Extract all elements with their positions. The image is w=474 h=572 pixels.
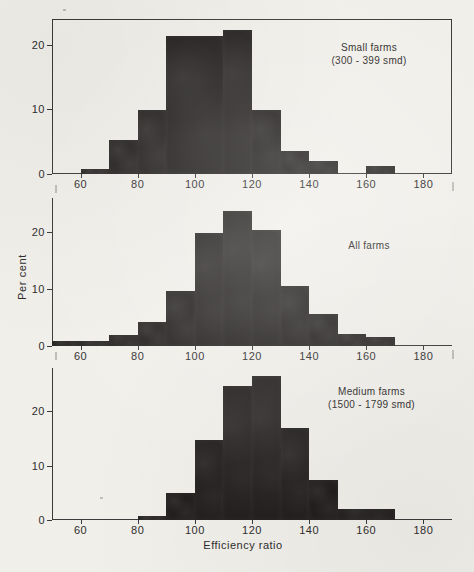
x-axis-tick-label: 180 (413, 525, 433, 536)
histogram-bar (252, 230, 281, 346)
y-axis-tick (47, 466, 52, 467)
x-axis-tick-label: 120 (242, 179, 262, 190)
histogram-bar (195, 440, 224, 520)
histogram-bar (223, 211, 252, 346)
y-axis-tick (47, 411, 52, 412)
bars-all-farms (52, 198, 452, 346)
plot-area-small-farms: Small farms (300 - 399 smd) 010206080100… (52, 19, 452, 174)
panel-note-all-farms: All farms (304, 239, 434, 253)
histogram-bar (52, 341, 81, 346)
histogram-bar (166, 493, 195, 520)
y-axis-tick (47, 174, 52, 175)
x-axis-tick-label: 140 (299, 525, 319, 536)
scan-speck (55, 352, 57, 360)
histogram-bar (166, 291, 195, 346)
y-axis-tick-label: 0 (38, 169, 45, 180)
histogram-bar (166, 36, 223, 174)
y-axis-tick-label: 20 (32, 227, 45, 238)
scan-speck (100, 497, 103, 499)
histogram-bar (309, 480, 338, 520)
panel-note-small-farms: Small farms (300 - 399 smd) (304, 41, 434, 68)
y-axis-tick (47, 289, 52, 290)
figure-histograms-efficiency-ratio: Per cent Small farms (300 - 399 smd) 010… (0, 0, 474, 572)
y-axis-tick (47, 520, 52, 521)
histogram-bar (109, 335, 138, 346)
histogram-bar (109, 140, 138, 174)
plot-area-all-farms: All farms 010206080100120140160180 (52, 198, 452, 346)
y-axis-tick-label: 10 (32, 104, 45, 115)
histogram-bar (138, 110, 167, 174)
scan-speck (452, 182, 454, 191)
histogram-bar (81, 169, 110, 174)
x-axis-tick-label: 80 (131, 179, 144, 190)
histogram-bar (309, 161, 338, 174)
y-axis-tick-label: 0 (38, 341, 45, 352)
y-axis-tick-label: 10 (32, 284, 45, 295)
x-axis-tick-label: 140 (299, 179, 319, 190)
histogram-bar (309, 314, 338, 346)
panel-small-farms: Small farms (300 - 399 smd) 010206080100… (0, 0, 474, 190)
histogram-bar (252, 110, 281, 174)
x-axis-label: Efficiency ratio (6, 539, 474, 551)
x-axis-tick-label: 160 (356, 525, 376, 536)
histogram-bar (366, 337, 395, 346)
scan-speck (55, 185, 57, 193)
x-axis-tick-label: 100 (185, 525, 205, 536)
histogram-bar (338, 334, 367, 346)
histogram-bar (252, 376, 281, 520)
x-axis-tick-label: 120 (242, 525, 262, 536)
x-axis-tick-label: 180 (413, 179, 433, 190)
y-axis-tick (47, 109, 52, 110)
scan-speck (452, 350, 454, 359)
y-axis-tick (47, 346, 52, 347)
histogram-bar (138, 322, 167, 346)
y-axis-tick-label: 10 (32, 460, 45, 471)
x-axis-tick-label: 80 (131, 525, 144, 536)
x-axis-tick-label: 160 (356, 179, 376, 190)
y-axis-tick (47, 232, 52, 233)
panel-note-medium-farms: Medium farms (1500 - 1799 smd) (304, 385, 439, 412)
histogram-bar (138, 516, 167, 520)
x-axis-tick-label: 100 (185, 179, 205, 190)
panel-medium-farms: Medium farms (1500 - 1799 smd) 010206080… (0, 357, 474, 572)
histogram-bar (281, 286, 310, 346)
histogram-bar (223, 386, 252, 520)
histogram-bar (366, 166, 395, 174)
y-axis-tick-label: 20 (32, 39, 45, 50)
x-axis-tick-label: 60 (74, 179, 87, 190)
y-axis-tick (47, 45, 52, 46)
y-axis-tick-label: 20 (32, 406, 45, 417)
histogram-bar (281, 151, 310, 174)
x-axis-tick-label: 60 (74, 525, 87, 536)
histogram-bar (281, 428, 310, 520)
scan-speck (63, 9, 66, 11)
panel-all-farms: All farms 010206080100120140160180 (0, 190, 474, 357)
plot-area-medium-farms: Medium farms (1500 - 1799 smd) 010206080… (52, 368, 452, 520)
histogram-bar (195, 233, 224, 346)
histogram-bar (338, 509, 395, 520)
histogram-bar (223, 30, 252, 174)
y-axis-tick-label: 0 (38, 515, 45, 526)
histogram-bar (81, 341, 110, 346)
